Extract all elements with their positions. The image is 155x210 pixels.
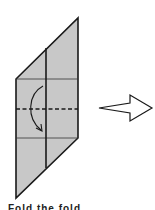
step-caption: Fold the fold... (8, 203, 92, 210)
origami-diagram (0, 0, 155, 210)
paper-sheet (16, 18, 78, 198)
outline-arrow-right-icon (99, 95, 152, 121)
